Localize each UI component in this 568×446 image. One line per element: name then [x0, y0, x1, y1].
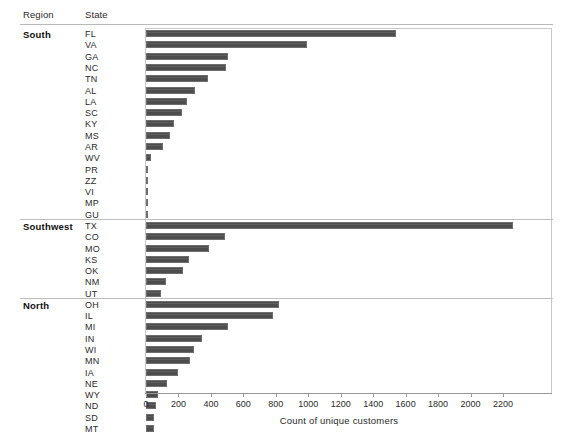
- bar-wv[interactable]: [146, 154, 151, 161]
- state-label-ok: OK: [85, 266, 98, 276]
- state-label-vi: VI: [85, 187, 94, 197]
- x-tick-label-2000: 2000: [461, 399, 481, 409]
- plot-area: [145, 28, 552, 394]
- x-tick-label-600: 600: [236, 399, 251, 409]
- x-tick-800: [276, 393, 277, 397]
- bar-ks[interactable]: [146, 256, 189, 263]
- x-tick-label-2200: 2200: [493, 399, 513, 409]
- region-label-north: North: [23, 300, 49, 311]
- bar-mp[interactable]: [146, 199, 148, 206]
- region-label-south: South: [23, 29, 51, 40]
- state-label-ms: MS: [85, 131, 99, 141]
- bar-va[interactable]: [146, 41, 307, 48]
- bar-oh[interactable]: [146, 301, 279, 308]
- bar-chart-panel: Region State SouthFLVAGANCTNALLASCKYMSAR…: [0, 0, 568, 446]
- bar-ky[interactable]: [146, 120, 174, 127]
- bar-in[interactable]: [146, 335, 202, 342]
- bar-fl[interactable]: [146, 30, 396, 37]
- state-label-ga: GA: [85, 52, 98, 62]
- bar-ar[interactable]: [146, 143, 163, 150]
- bar-la[interactable]: [146, 98, 187, 105]
- bar-ga[interactable]: [146, 53, 228, 60]
- bar-tx[interactable]: [146, 222, 513, 229]
- bar-co[interactable]: [146, 233, 225, 240]
- state-label-mn: MN: [85, 356, 99, 366]
- bar-zz[interactable]: [146, 177, 148, 184]
- bar-mo[interactable]: [146, 245, 209, 252]
- x-tick-label-0: 0: [143, 399, 148, 409]
- state-label-tx: TX: [85, 221, 97, 231]
- bar-tn[interactable]: [146, 75, 208, 82]
- state-label-mo: MO: [85, 244, 100, 254]
- bar-mt[interactable]: [146, 425, 154, 432]
- section-divider-southwest: [20, 219, 553, 220]
- state-label-wv: WV: [85, 153, 100, 163]
- bar-wi[interactable]: [146, 346, 194, 353]
- column-header-region: Region: [23, 9, 54, 20]
- bar-nm[interactable]: [146, 278, 166, 285]
- section-divider-north: [20, 298, 553, 299]
- x-tick-label-200: 200: [171, 399, 186, 409]
- state-label-oh: OH: [85, 300, 99, 310]
- state-label-ar: AR: [85, 142, 98, 152]
- x-tick-0: [146, 393, 147, 397]
- x-tick-2200: [503, 393, 504, 397]
- state-label-ne: NE: [85, 379, 98, 389]
- x-tick-600: [243, 393, 244, 397]
- state-label-zz: ZZ: [85, 176, 96, 186]
- state-label-nc: NC: [85, 63, 98, 73]
- x-tick-400: [211, 393, 212, 397]
- bar-ia[interactable]: [146, 369, 178, 376]
- bar-sc[interactable]: [146, 109, 182, 116]
- state-label-mp: MP: [85, 198, 99, 208]
- state-label-in: IN: [85, 334, 94, 344]
- x-tick-1400: [373, 393, 374, 397]
- x-tick-label-800: 800: [268, 399, 283, 409]
- bar-il[interactable]: [146, 312, 273, 319]
- x-tick-1000: [308, 393, 309, 397]
- state-label-nd: ND: [85, 401, 98, 411]
- bar-pr[interactable]: [146, 166, 148, 173]
- bar-nc[interactable]: [146, 64, 226, 71]
- state-label-pr: PR: [85, 165, 98, 175]
- x-tick-1600: [406, 393, 407, 397]
- bar-al[interactable]: [146, 87, 195, 94]
- state-label-co: CO: [85, 232, 99, 242]
- x-tick-1800: [438, 393, 439, 397]
- bar-ok[interactable]: [146, 267, 183, 274]
- bar-vi[interactable]: [146, 188, 148, 195]
- bar-gu[interactable]: [146, 211, 148, 218]
- bar-ne[interactable]: [146, 380, 167, 387]
- x-tick-label-1000: 1000: [298, 399, 318, 409]
- state-label-il: IL: [85, 311, 93, 321]
- x-tick-2000: [471, 393, 472, 397]
- x-axis-line: [145, 393, 552, 394]
- x-tick-200: [178, 393, 179, 397]
- x-tick-label-400: 400: [203, 399, 218, 409]
- state-label-va: VA: [85, 40, 97, 50]
- x-tick-label-1600: 1600: [396, 399, 416, 409]
- region-label-southwest: Southwest: [23, 221, 73, 232]
- column-header-state: State: [85, 9, 108, 20]
- x-tick-1200: [341, 393, 342, 397]
- state-label-al: AL: [85, 86, 96, 96]
- state-label-wi: WI: [85, 345, 96, 355]
- x-tick-label-1200: 1200: [331, 399, 351, 409]
- x-axis-title-text: Count of unique customers: [170, 415, 399, 426]
- state-label-nm: NM: [85, 277, 99, 287]
- bar-mi[interactable]: [146, 323, 228, 330]
- x-axis-title: Count of unique customers: [0, 415, 568, 426]
- bar-ut[interactable]: [146, 290, 161, 297]
- header-divider: [20, 24, 553, 25]
- bar-mn[interactable]: [146, 357, 190, 364]
- state-label-ky: KY: [85, 119, 97, 129]
- state-label-ks: KS: [85, 255, 97, 265]
- state-label-sc: SC: [85, 108, 98, 118]
- state-label-ia: IA: [85, 368, 94, 378]
- x-tick-label-1400: 1400: [363, 399, 383, 409]
- bar-ms[interactable]: [146, 132, 170, 139]
- state-label-wy: WY: [85, 390, 100, 400]
- state-label-fl: FL: [85, 29, 96, 39]
- state-label-tn: TN: [85, 74, 97, 84]
- x-tick-label-1800: 1800: [428, 399, 448, 409]
